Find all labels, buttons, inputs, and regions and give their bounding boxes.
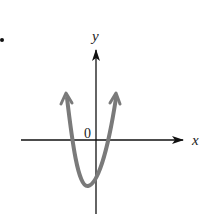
origin-label: 0	[84, 126, 91, 141]
bullet-marker	[0, 38, 4, 42]
parabola-curve	[67, 98, 116, 186]
parabola-diagram: y x 0	[0, 0, 204, 214]
x-axis-label: x	[191, 132, 199, 148]
y-axis-label: y	[90, 28, 99, 44]
